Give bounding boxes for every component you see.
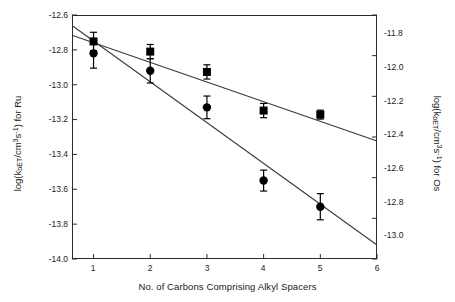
data-points-group xyxy=(89,32,324,220)
marker-circle-1-2 xyxy=(203,103,211,111)
marker-circle-1-1 xyxy=(146,67,154,75)
marker-circle-1-4 xyxy=(316,203,324,211)
marker-square-0-1 xyxy=(146,48,154,56)
fit-lines-group xyxy=(72,25,377,245)
marker-circle-1-0 xyxy=(89,49,97,57)
marker-square-0-3 xyxy=(260,107,268,115)
marker-square-0-2 xyxy=(203,68,211,76)
marker-circle-1-3 xyxy=(259,176,267,184)
plot-canvas xyxy=(0,0,455,302)
fit-line-series-0 xyxy=(72,35,377,141)
marker-square-0-4 xyxy=(316,111,324,119)
chart-figure: -12.6 -12.8 -13.0 -13.2 -13.4 -13.6 -13.… xyxy=(0,0,455,302)
fit-line-series-1 xyxy=(72,25,377,245)
